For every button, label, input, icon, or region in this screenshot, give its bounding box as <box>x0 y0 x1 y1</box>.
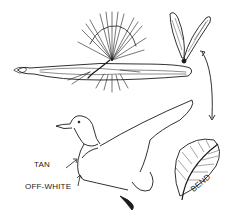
duck-neck <box>74 128 84 160</box>
dry-fly-illustration <box>14 12 192 92</box>
offwhite-pointer <box>78 176 80 186</box>
double-arrow-icon <box>200 51 215 120</box>
duck-foot <box>120 196 133 210</box>
label-tan: TAN <box>34 160 50 169</box>
hackle-arc <box>90 26 136 46</box>
duck-tail <box>132 172 153 191</box>
body-rib-2 <box>40 72 186 75</box>
duck-body <box>78 160 128 190</box>
feather-barbs <box>176 140 220 180</box>
duck-bill <box>56 124 72 129</box>
wing-base-knot <box>182 59 186 63</box>
tan-pointer <box>66 160 76 168</box>
fly-body <box>18 63 192 80</box>
duck-illustration <box>56 100 193 210</box>
duck-neck-ring <box>84 144 98 146</box>
body-rib-1 <box>40 68 186 72</box>
duck-eye <box>78 121 80 123</box>
duck-breast <box>82 148 98 158</box>
wing-right <box>184 17 211 60</box>
label-off-white: OFF-WHITE <box>25 182 71 191</box>
